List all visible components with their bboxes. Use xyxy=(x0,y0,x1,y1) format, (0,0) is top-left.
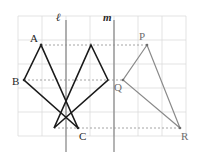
vertex-dot-C xyxy=(77,127,80,130)
point-label-A: A xyxy=(30,33,38,44)
vertex-dot-A xyxy=(40,44,43,47)
vertex-dot-R xyxy=(179,127,182,130)
vertex-dot-B xyxy=(23,79,26,82)
point-label-R: R xyxy=(181,131,188,142)
geometry-figure-canvas: ℓmABCPQR xyxy=(0,0,204,160)
point-label-Q: Q xyxy=(114,82,122,93)
mirror-line-label-m: m xyxy=(103,12,112,23)
point-label-P: P xyxy=(139,31,145,42)
vertex-dot-Q xyxy=(122,79,125,82)
triangle-ABC xyxy=(24,45,78,128)
point-label-B: B xyxy=(12,76,19,87)
mirror-line-label-l: ℓ xyxy=(56,12,61,23)
background-grid xyxy=(18,16,186,136)
triangle-AprimeBprimeCprime xyxy=(54,45,108,128)
point-label-C: C xyxy=(79,131,86,142)
reflection-diagram-svg xyxy=(0,0,204,160)
vertex-dot-P xyxy=(146,44,149,47)
triangle-PQR xyxy=(123,45,180,128)
triangles-group xyxy=(24,45,180,128)
